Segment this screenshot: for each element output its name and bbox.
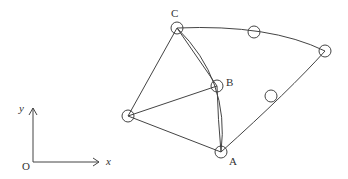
node-labels: C B A — [171, 7, 237, 167]
node-c-label: C — [171, 7, 178, 19]
edge-left-a — [128, 116, 221, 152]
y-axis-label: y — [18, 102, 24, 114]
edge-left-b — [128, 86, 217, 116]
edge-c-a-curved — [177, 28, 222, 152]
node-b-label: B — [226, 76, 233, 88]
mesh-diagram: O x y C B A — [0, 0, 348, 179]
edge-c-left — [128, 28, 177, 116]
node-mid-right — [265, 90, 277, 102]
origin-label: O — [22, 160, 30, 172]
node-top-middle — [248, 26, 260, 38]
mesh-edges — [128, 27, 325, 152]
coordinate-axes: O x y — [18, 102, 111, 172]
x-axis-label: x — [105, 155, 111, 167]
mesh-nodes — [122, 22, 331, 158]
node-a-label: A — [229, 155, 237, 167]
edge-c-r-curved — [177, 27, 325, 51]
